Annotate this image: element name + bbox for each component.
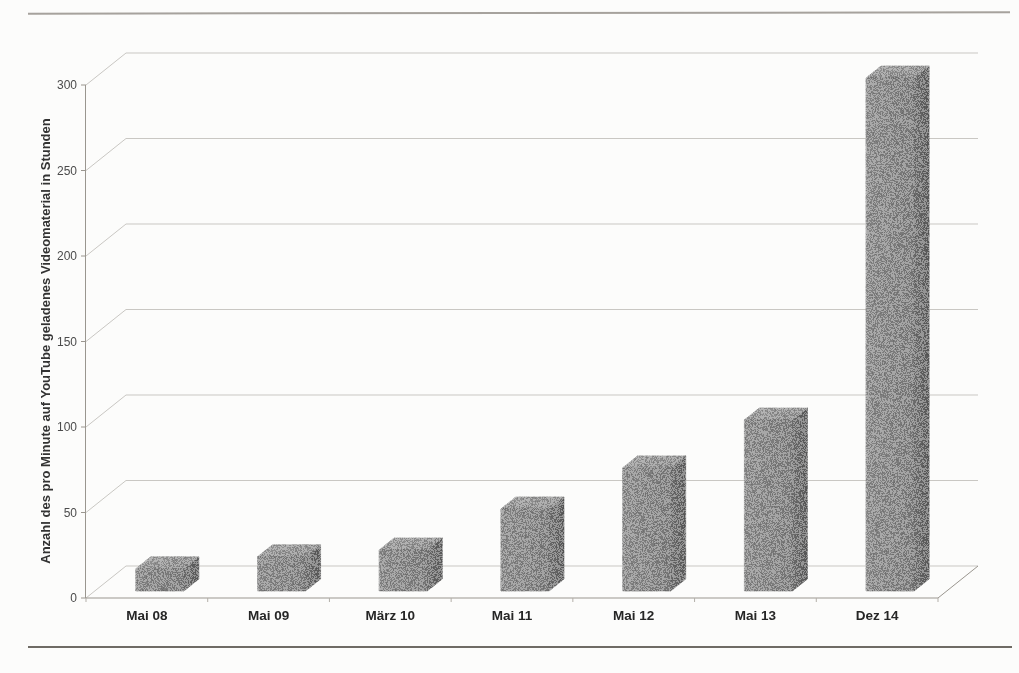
gridline-250 — [86, 139, 978, 171]
y-tick-label: 150 — [57, 335, 77, 349]
y-tick-label: 300 — [57, 78, 77, 92]
bar-front-face — [379, 550, 427, 591]
gridline-300 — [86, 53, 978, 85]
bar-side-face — [671, 456, 686, 591]
bar-front-face — [258, 557, 306, 591]
x-category-label: Mai 11 — [492, 608, 533, 623]
bar-front-face — [866, 78, 914, 591]
bar-side-face — [549, 497, 564, 591]
bottom-horizontal-rule — [28, 646, 1012, 648]
gridline-200 — [86, 224, 978, 256]
chart-svg: 050100150200250300Mai 08Mai 09März 10Mai… — [0, 0, 1019, 673]
bar-Mai 08 — [136, 557, 199, 591]
x-category-label: Mai 13 — [735, 608, 777, 623]
y-tick-label: 200 — [57, 249, 77, 263]
x-category-label: Mai 12 — [613, 608, 654, 623]
bar-Dez 14 — [866, 66, 929, 591]
bar-side-face — [792, 408, 807, 591]
x-category-label: Mai 08 — [126, 608, 168, 623]
bar-front-face — [136, 569, 184, 591]
bar-side-face — [914, 66, 929, 591]
y-tick-label: 0 — [70, 591, 77, 605]
bar-front-face — [501, 509, 549, 591]
bar-Mai 12 — [623, 456, 686, 591]
y-axis-title: Anzahl des pro Minute auf YouTube gelade… — [38, 118, 53, 563]
y-tick-label: 50 — [64, 506, 78, 520]
x-category-label: März 10 — [366, 608, 416, 623]
y-tick-label: 250 — [57, 164, 77, 178]
bars-group — [136, 66, 929, 591]
youtube-upload-hours-chart: 050100150200250300Mai 08Mai 09März 10Mai… — [0, 0, 1019, 673]
bar-Mai 13 — [744, 408, 807, 591]
gridline-150 — [86, 310, 978, 342]
bar-Mai 09 — [258, 545, 321, 591]
bar-front-face — [623, 468, 671, 591]
bar-front-face — [744, 420, 792, 591]
bar-Mai 11 — [501, 497, 564, 591]
gridline-100 — [86, 395, 978, 427]
y-tick-label: 100 — [57, 420, 77, 434]
scanned-page: 050100150200250300Mai 08Mai 09März 10Mai… — [0, 0, 1019, 673]
x-category-label: Mai 09 — [248, 608, 289, 623]
x-category-label: Dez 14 — [856, 608, 899, 623]
bar-März 10 — [379, 538, 442, 591]
